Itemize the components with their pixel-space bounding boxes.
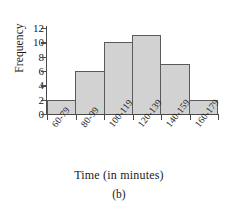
x-axis-label: Time (in minutes) — [0, 168, 238, 183]
y-tick-mark — [41, 100, 46, 101]
y-tick-mark — [41, 57, 46, 58]
figure-caption: (b) — [0, 188, 238, 200]
x-tick-mark — [104, 115, 105, 120]
y-tick-mark — [41, 114, 46, 115]
x-tick-mark — [161, 115, 162, 120]
y-tick-mark — [41, 85, 46, 86]
y-tick-mark — [41, 42, 46, 43]
y-tick-mark — [41, 28, 46, 29]
x-tick-mark — [47, 115, 48, 120]
y-tick-mark — [41, 71, 46, 72]
x-tick-mark — [218, 115, 219, 120]
x-tick-mark — [190, 115, 191, 120]
x-tick-mark — [133, 115, 134, 120]
histogram-figure: Frequency 024681012 60-7980-99100-119120… — [0, 0, 238, 211]
bar-series — [47, 28, 218, 114]
x-tick-mark — [76, 115, 77, 120]
